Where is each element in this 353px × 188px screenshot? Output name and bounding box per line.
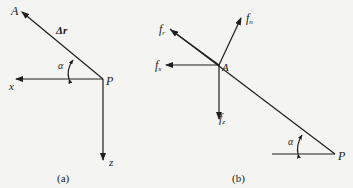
caption-b: (b) — [232, 172, 245, 185]
z-axis-label: z — [108, 156, 114, 168]
fz-label: fz — [219, 111, 225, 126]
point-a-label: A — [10, 4, 19, 18]
x-axis-label: x — [8, 80, 14, 92]
fr-label: fr — [159, 22, 165, 37]
point-p-label-b: P — [337, 149, 346, 163]
point-a-label-b: A — [221, 61, 229, 73]
point-p-label: P — [105, 74, 114, 88]
panel-b: fr fn fx fz A P α (b) — [155, 11, 346, 185]
alpha-label-a: α — [58, 60, 64, 71]
delta-r-label: Δr — [55, 24, 68, 36]
angle-arc-b — [298, 135, 303, 154]
caption-a: (a) — [57, 172, 70, 185]
fr-vector — [171, 30, 219, 65]
fn-label: fn — [246, 11, 253, 26]
panel-a: A P Δr α x z (a) — [8, 4, 114, 185]
diagram-canvas: A P Δr α x z (a) fr fn fx fz A P α (b) — [0, 0, 353, 188]
angle-arc-a — [68, 60, 73, 79]
alpha-label-b: α — [288, 136, 294, 147]
fx-label: fx — [155, 58, 162, 73]
fn-vector — [219, 18, 241, 65]
figure: A P Δr α x z (a) fr fn fx fz A P α (b) — [0, 0, 353, 188]
